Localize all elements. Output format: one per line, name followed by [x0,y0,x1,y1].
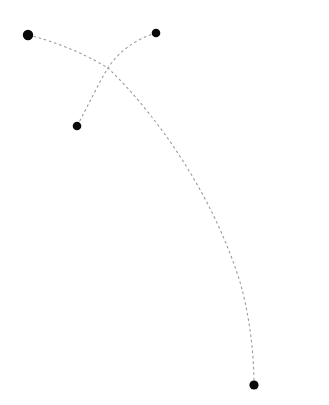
node-dot-bottom-right[interactable] [249,380,258,389]
canvas-background [0,0,329,405]
node-dot-top-right[interactable] [152,29,161,38]
node-dot-mid-left[interactable] [73,122,82,131]
diagram-svg [0,0,329,405]
node-dot-top-left[interactable] [23,30,33,40]
diagram-canvas [0,0,329,405]
